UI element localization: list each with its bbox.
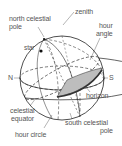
label-hour-angle-1: hour (99, 22, 113, 29)
ncp-leader (38, 27, 44, 37)
label-zenith: zenith (75, 8, 93, 15)
hour-circle-star (37, 39, 52, 118)
label-south-celestial-pole-1: south celestial (65, 119, 108, 126)
label-star: star (24, 44, 34, 51)
hour-circle-leader (44, 115, 52, 128)
label-hour-angle-2: angle (96, 30, 113, 37)
label-north-celestial-pole-2: pole (9, 23, 22, 30)
north-celestial-pole-point (43, 38, 45, 40)
label-north-celestial-pole-1: north celestial (9, 15, 51, 22)
celestial-sphere-diagram: north celestial pole zenith hour angle s… (0, 0, 122, 146)
label-south-celestial-pole-2: pole (100, 127, 113, 134)
label-hour-circle: hour circle (15, 131, 46, 138)
label-north: N (8, 74, 13, 81)
label-celestial-equator-2: equator (11, 115, 34, 122)
zenith-leader (63, 12, 74, 25)
label-horizon: horizon (86, 92, 108, 99)
label-south: S (109, 74, 114, 81)
label-celestial-equator-1: celestial (10, 107, 34, 114)
star-marker (39, 49, 42, 52)
